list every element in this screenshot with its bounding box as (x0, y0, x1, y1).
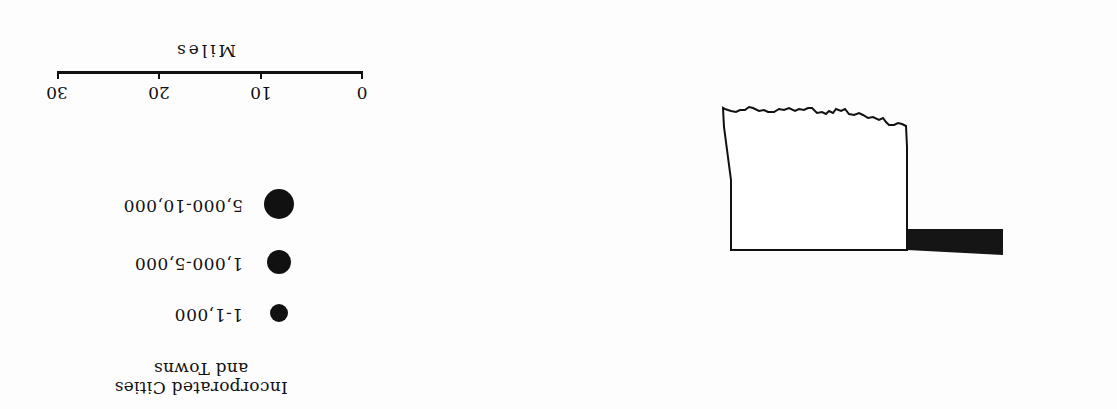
scale-label-10: 10 (250, 83, 272, 103)
large-city-dot-icon (264, 189, 294, 219)
scale-tick-30 (57, 71, 59, 79)
legend-label-medium: 1,000-5,000 (134, 254, 243, 274)
map-figure: Incorporated Cities and Towns 1-1,000 1,… (0, 0, 1117, 409)
legend-label-small: 1-1,000 (174, 305, 243, 325)
legend-title-line1: Incorporated Cities (96, 378, 306, 397)
legend-label-large: 5,000-10,000 (123, 196, 243, 216)
scale-label-0: 0 (357, 83, 368, 103)
scale-bar-line (57, 71, 362, 74)
scale-tick-10 (260, 71, 262, 79)
scale-label-20: 20 (148, 83, 170, 103)
legend-title: Incorporated Cities and Towns (96, 359, 306, 397)
medium-city-dot-icon (267, 250, 291, 274)
scale-label-30: 30 (46, 83, 68, 103)
state-body-outline (723, 107, 907, 250)
scale-tick-20 (158, 71, 160, 79)
small-city-dot-icon (270, 304, 288, 322)
panhandle-shaded-region (907, 229, 1003, 255)
scale-unit-label: Miles (174, 41, 236, 61)
legend-title-line2: and Towns (96, 359, 306, 378)
scale-tick-0 (361, 71, 363, 79)
